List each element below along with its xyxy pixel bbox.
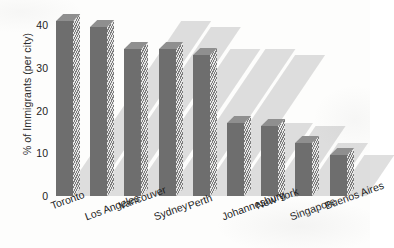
x-tick-label: Toronto [49,188,86,211]
x-tick-label: New York [254,185,300,211]
x-tick-label: Perth [186,191,214,211]
x-tick-label: Sydney [152,199,189,222]
